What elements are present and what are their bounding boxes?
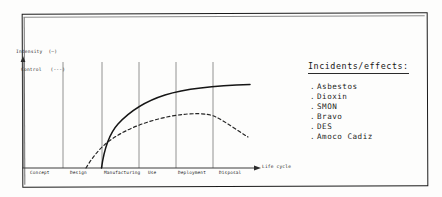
- bullet-icon: .: [310, 102, 317, 112]
- list-item: .Asbestos: [310, 82, 428, 92]
- x-axis-tick-labels: Concept Design Manufacturing Use Deploym…: [0, 170, 300, 184]
- list-item: .Dioxin: [310, 92, 428, 102]
- list-item-label: Dioxin: [317, 92, 347, 101]
- x-axis-caption: Life cycle: [262, 164, 291, 169]
- x-tick-disposal: Disposal: [219, 170, 241, 175]
- incidents-effects-title: Incidents/effects:: [308, 61, 409, 74]
- bullet-icon: .: [310, 92, 317, 102]
- bullet-icon: .: [310, 132, 317, 142]
- series-line-control: [86, 114, 248, 168]
- list-item: .DES: [310, 122, 428, 132]
- x-tick-manufacturing: Manufacturing: [104, 170, 140, 175]
- life-cycle-chart: Intensity (—) Control (---) Concept Desi…: [0, 0, 300, 197]
- list-item-label: Bravo: [317, 112, 342, 121]
- list-item: .Bravo: [310, 112, 428, 122]
- incidents-effects-list: .Asbestos .Dioxin .SMON .Bravo .DES .Amo…: [310, 82, 428, 143]
- chart-gridlines: [63, 62, 213, 168]
- axis-legend-intensity: Intensity (—): [16, 49, 65, 55]
- figure-canvas: Intensity (—) Control (---) Concept Desi…: [0, 0, 442, 197]
- x-tick-concept: Concept: [30, 170, 50, 175]
- chart-svg: [0, 0, 300, 197]
- bullet-icon: .: [310, 82, 317, 92]
- list-item-label: Asbestos: [317, 82, 358, 91]
- axis-legend: Intensity (—) Control (---): [16, 37, 65, 86]
- axis-legend-control: Control (---): [16, 67, 65, 73]
- x-tick-use: Use: [148, 170, 156, 175]
- incidents-effects-panel: Incidents/effects: .Asbestos .Dioxin .SM…: [308, 54, 428, 142]
- list-item-label: DES: [317, 122, 332, 131]
- x-tick-design: Design: [70, 170, 87, 175]
- bullet-icon: .: [310, 122, 317, 132]
- x-tick-deployment: Deployment: [178, 170, 206, 175]
- list-item-label: SMON: [317, 102, 337, 111]
- bullet-icon: .: [310, 112, 317, 122]
- list-item: .Amoco Cadiz: [310, 132, 428, 142]
- list-item: .SMON: [310, 102, 428, 112]
- list-item-label: Amoco Cadiz: [317, 132, 373, 141]
